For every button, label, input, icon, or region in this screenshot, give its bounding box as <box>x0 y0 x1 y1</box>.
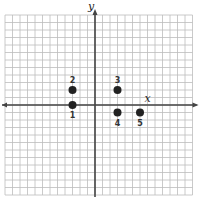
point-label-4: 4 <box>115 119 121 128</box>
x-axis-label: x <box>145 92 152 105</box>
point-label-5: 5 <box>137 119 143 128</box>
coordinate-plane: x y 12345 <box>0 0 204 201</box>
point-5 <box>136 109 144 117</box>
point-1 <box>69 101 77 109</box>
point-label-2: 2 <box>70 76 76 85</box>
point-3 <box>114 86 122 94</box>
point-4 <box>114 109 122 117</box>
point-label-3: 3 <box>115 76 121 85</box>
point-2 <box>69 86 77 94</box>
y-axis-label: y <box>87 0 95 13</box>
point-label-1: 1 <box>70 111 76 120</box>
